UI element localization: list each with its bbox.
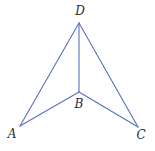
vertex-label-c: C [136,128,145,142]
edge-DC [79,23,138,127]
edge-BC [79,92,138,127]
vertex-label-a: A [7,127,17,141]
geometry-diagram: A B C D [0,0,155,151]
edge-AB [20,92,79,126]
edge-AD [20,23,79,126]
vertex-label-d: D [74,4,85,18]
vertex-label-b: B [74,97,84,111]
